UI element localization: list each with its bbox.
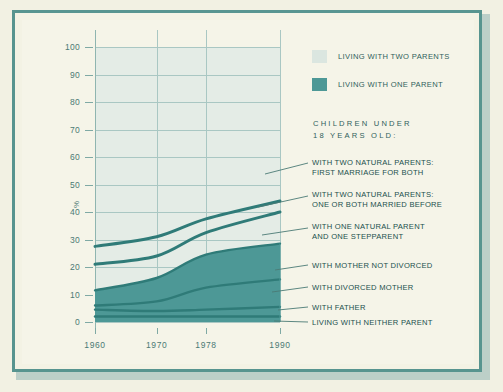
legend-swatch-two-parents xyxy=(312,50,327,63)
y-tick-label-40: 40 xyxy=(46,207,80,217)
y-tick-mark-70 xyxy=(85,130,93,131)
callout-two-natural-first-marriage-line2: FIRST MARRIAGE FOR BOTH xyxy=(312,168,434,178)
y-tick-label-100: 100 xyxy=(46,42,80,52)
callout-one-natural-stepparent: WITH ONE NATURAL PARENT AND ONE STEPPARE… xyxy=(312,222,425,242)
callout-mother-not-divorced-line1: WITH MOTHER NOT DIVORCED xyxy=(312,261,433,271)
legend-item-two-parents: LIVING WITH TWO PARENTS xyxy=(312,50,450,63)
gridline-y-10 xyxy=(95,295,280,296)
y-tick-label-10: 10 xyxy=(46,290,80,300)
callout-two-natural-remarried: WITH TWO NATURAL PARENTS: ONE OR BOTH MA… xyxy=(312,190,442,210)
legend-item-one-parent: LIVING WITH ONE PARENT xyxy=(312,78,450,91)
legend: LIVING WITH TWO PARENTS LIVING WITH ONE … xyxy=(312,50,450,106)
callout-with-father-line1: WITH FATHER xyxy=(312,303,366,313)
y-tick-label-30: 30 xyxy=(46,235,80,245)
gridline-y-80 xyxy=(95,102,280,103)
callout-two-natural-first-marriage-line1: WITH TWO NATURAL PARENTS: xyxy=(312,158,434,168)
y-tick-mark-90 xyxy=(85,75,93,76)
gridline-y-0 xyxy=(95,322,280,323)
gridline-x-1978 xyxy=(206,30,207,322)
y-axis-line xyxy=(95,30,96,330)
callout-two-natural-remarried-line1: WITH TWO NATURAL PARENTS: xyxy=(312,190,442,200)
y-tick-label-60: 60 xyxy=(46,152,80,162)
chart-figure: 0102030405060708090100 1960197019781990 … xyxy=(0,0,503,392)
x-tick-mark-1990 xyxy=(280,328,281,334)
x-tick-mark-1960 xyxy=(95,328,96,334)
gridline-y-50 xyxy=(95,185,280,186)
callout-two-natural-remarried-line2: ONE OR BOTH MARRIED BEFORE xyxy=(312,200,442,210)
x-tick-mark-1970 xyxy=(157,328,158,334)
y-tick-mark-50 xyxy=(85,185,93,186)
legend-swatch-one-parent xyxy=(312,78,327,91)
y-tick-mark-80 xyxy=(85,102,93,103)
y-tick-label-90: 90 xyxy=(46,70,80,80)
y-tick-mark-100 xyxy=(85,47,93,48)
callout-mother-not-divorced: WITH MOTHER NOT DIVORCED xyxy=(312,261,433,271)
gridline-y-70 xyxy=(95,130,280,131)
x-tick-mark-1978 xyxy=(206,328,207,334)
callout-two-natural-first-marriage: WITH TWO NATURAL PARENTS: FIRST MARRIAGE… xyxy=(312,158,434,178)
chart-subtitle-line2: 18 YEARS OLD: xyxy=(313,130,412,142)
callout-one-natural-stepparent-line1: WITH ONE NATURAL PARENT xyxy=(312,222,425,232)
gridline-y-100 xyxy=(95,47,280,48)
callout-divorced-mother-line1: WITH DIVORCED MOTHER xyxy=(312,283,414,293)
y-tick-label-20: 20 xyxy=(46,262,80,272)
y-tick-label-70: 70 xyxy=(46,125,80,135)
y-tick-mark-20 xyxy=(85,267,93,268)
callout-neither-parent: LIVING WITH NEITHER PARENT xyxy=(312,318,433,328)
gridline-y-20 xyxy=(95,267,280,268)
callout-divorced-mother: WITH DIVORCED MOTHER xyxy=(312,283,414,293)
y-axis-label: % xyxy=(72,201,81,208)
x-tick-label-1978: 1978 xyxy=(181,340,231,350)
y-tick-label-80: 80 xyxy=(46,97,80,107)
y-tick-label-0: 0 xyxy=(46,317,80,327)
x-tick-label-1960: 1960 xyxy=(70,340,120,350)
callout-with-father: WITH FATHER xyxy=(312,303,366,313)
y-tick-mark-10 xyxy=(85,295,93,296)
gridline-x-1970 xyxy=(157,30,158,322)
callout-one-natural-stepparent-line2: AND ONE STEPPARENT xyxy=(312,232,425,242)
y-tick-mark-40 xyxy=(85,212,93,213)
gridline-y-40 xyxy=(95,212,280,213)
x-tick-label-1990: 1990 xyxy=(255,340,305,350)
legend-label-two-parents: LIVING WITH TWO PARENTS xyxy=(338,52,450,61)
y-tick-mark-30 xyxy=(85,240,93,241)
gridline-y-60 xyxy=(95,157,280,158)
y-tick-mark-60 xyxy=(85,157,93,158)
plot-top-extension xyxy=(95,30,280,47)
callout-neither-parent-line1: LIVING WITH NEITHER PARENT xyxy=(312,318,433,328)
gridline-y-90 xyxy=(95,75,280,76)
gridline-x-1990 xyxy=(280,30,281,322)
chart-subtitle: CHILDREN UNDER 18 YEARS OLD: xyxy=(313,118,412,142)
x-tick-label-1970: 1970 xyxy=(132,340,182,350)
y-tick-label-50: 50 xyxy=(46,180,80,190)
legend-label-one-parent: LIVING WITH ONE PARENT xyxy=(338,80,443,89)
y-tick-mark-0 xyxy=(85,322,93,323)
chart-subtitle-line1: CHILDREN UNDER xyxy=(313,118,412,130)
gridline-y-30 xyxy=(95,240,280,241)
